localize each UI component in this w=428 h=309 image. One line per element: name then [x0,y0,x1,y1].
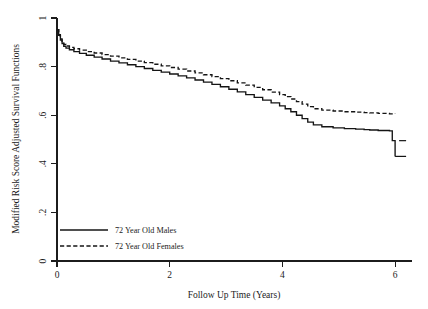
x-axis-ticks [57,261,395,267]
y-axis-tick-labels: 0 .2 .4 .6 .8 1 [38,15,48,263]
series-line-females [57,30,395,114]
series-line-males [57,30,395,157]
x-tick-label-0: 0 [55,270,60,280]
legend-label-males: 72 Year Old Males [115,226,176,235]
series-group [57,30,406,157]
y-tick-label-1: 1 [38,15,48,20]
x-tick-label-4: 4 [280,270,285,280]
x-tick-label-2: 2 [167,270,172,280]
y-tick-label-0-6: .6 [38,111,48,118]
x-axis-title: Follow Up Time (Years) [188,290,281,301]
y-axis-ticks [51,18,57,261]
legend-label-females: 72 Year Old Females [115,242,184,251]
survival-curve-figure: 0 .2 .4 .6 .8 1 0 2 4 6 Follow Up Time (… [0,0,428,309]
x-tick-label-6: 6 [393,270,398,280]
x-axis-tick-labels: 0 2 4 6 [55,270,398,280]
y-tick-label-0-4: .4 [38,160,48,167]
y-tick-label-0-8: .8 [38,63,48,70]
y-axis-title: Modified Risk Score Adjusted Survival Fu… [11,44,21,234]
legend: 72 Year Old Males 72 Year Old Females [60,226,184,251]
y-tick-label-0: 0 [38,258,48,263]
y-tick-label-0-2: .2 [38,209,48,216]
censor-tick-group [395,141,406,157]
survival-plot: 0 .2 .4 .6 .8 1 0 2 4 6 Follow Up Time (… [0,0,428,309]
